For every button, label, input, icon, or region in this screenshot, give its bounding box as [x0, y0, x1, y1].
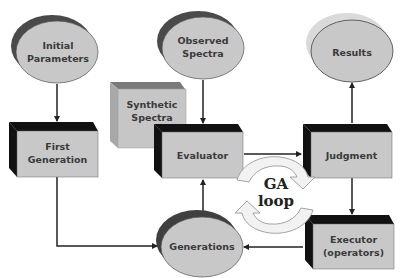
node-generations: [156, 210, 243, 277]
node-evaluator: [154, 124, 243, 178]
node-results: [306, 13, 393, 82]
node-executor: [305, 215, 394, 269]
label-ga-loop: GA loop: [251, 176, 301, 210]
edge-first-to-generations: [57, 177, 157, 246]
ga-loop-line2: loop: [251, 193, 301, 210]
node-initial-parameters: [11, 15, 98, 83]
ga-flow-diagram: [0, 0, 401, 278]
node-judgment: [303, 124, 392, 178]
ga-loop-line1: GA: [251, 176, 301, 193]
node-first-generation: [9, 122, 98, 177]
node-observed-spectra: [157, 11, 244, 79]
